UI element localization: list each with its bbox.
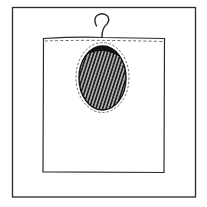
- hanger-hook-icon: [95, 14, 109, 37]
- bag-illustration: [0, 0, 207, 207]
